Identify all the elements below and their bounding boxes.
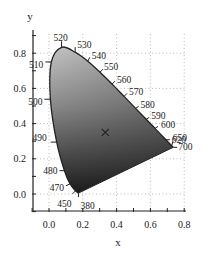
wavelength-tick: [72, 191, 75, 194]
wavelength-label-560: 560: [117, 75, 131, 85]
wavelength-tick: [136, 106, 139, 108]
wavelength-label-650: 650: [173, 133, 188, 143]
wavelength-label-580: 580: [141, 100, 156, 110]
y-tick-label: 0.8: [14, 48, 27, 59]
wavelength-label-500: 500: [28, 97, 43, 107]
x-axis-title: x: [115, 236, 121, 248]
wavelength-label-540: 540: [92, 51, 107, 61]
wavelength-label-600: 600: [161, 120, 176, 130]
y-axis-title: y: [27, 10, 33, 22]
wavelength-tick: [88, 57, 90, 61]
wavelength-label-530: 530: [77, 40, 92, 50]
y-tick-label: 0.6: [14, 83, 27, 94]
y-tick-label: 0.0: [14, 189, 27, 200]
y-tick-label: 0.2: [14, 153, 27, 164]
wavelength-label-380: 380: [80, 201, 95, 211]
wavelength-tick: [146, 117, 149, 119]
wavelength-tick: [66, 184, 70, 186]
wavelength-label-470: 470: [50, 183, 65, 193]
wavelength-tick: [155, 126, 158, 128]
x-tick-label: 0.4: [110, 219, 123, 230]
y-tick-label: 0.4: [14, 118, 27, 129]
chromaticity-chart: 0.00.20.40.60.80.00.20.40.60.8 380450470…: [0, 0, 203, 265]
wavelength-label-490: 490: [32, 133, 47, 143]
wavelength-label-510: 510: [29, 60, 44, 70]
wavelength-tick: [112, 81, 115, 84]
x-tick-label: 0.0: [43, 219, 56, 230]
wavelength-label-570: 570: [129, 87, 144, 97]
x-tick-label: 0.8: [178, 219, 191, 230]
wavelength-label-520: 520: [53, 33, 68, 43]
wavelength-tick: [100, 69, 103, 72]
wavelength-tick: [124, 93, 127, 96]
wavelength-label-450: 450: [57, 199, 72, 209]
wavelength-label-700: 700: [178, 142, 193, 152]
x-tick-label: 0.2: [77, 219, 90, 230]
x-tick-label: 0.6: [144, 219, 157, 230]
wavelength-label-480: 480: [43, 166, 58, 176]
wavelength-label-550: 550: [104, 62, 119, 72]
